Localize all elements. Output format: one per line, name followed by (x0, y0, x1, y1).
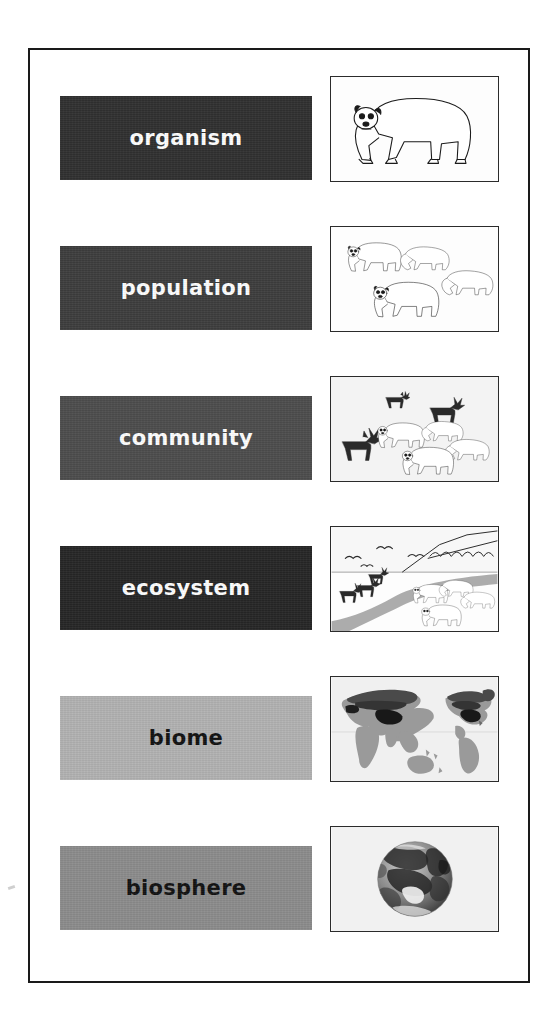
level-bar-biome[interactable]: biome (60, 696, 312, 780)
illustration-biosphere[interactable] (330, 826, 499, 932)
ecological-organization-figure: organism (28, 48, 530, 983)
level-label-community: community (119, 426, 253, 450)
level-label-population: population (121, 276, 251, 300)
scan-artifact-speck (8, 885, 16, 890)
level-bar-biosphere[interactable]: biosphere (60, 846, 312, 930)
illustration-population[interactable] (330, 226, 499, 332)
level-label-organism: organism (130, 126, 243, 150)
level-bar-population[interactable]: population (60, 246, 312, 330)
illustration-organism[interactable] (330, 76, 499, 182)
level-label-biosphere: biosphere (126, 876, 247, 900)
illustration-community[interactable] (330, 376, 499, 482)
level-bar-ecosystem[interactable]: ecosystem (60, 546, 312, 630)
level-bar-community[interactable]: community (60, 396, 312, 480)
illustration-ecosystem[interactable] (330, 526, 499, 632)
level-label-ecosystem: ecosystem (122, 576, 251, 600)
level-label-biome: biome (149, 726, 223, 750)
level-bar-organism[interactable]: organism (60, 96, 312, 180)
illustration-biome[interactable] (330, 676, 499, 782)
